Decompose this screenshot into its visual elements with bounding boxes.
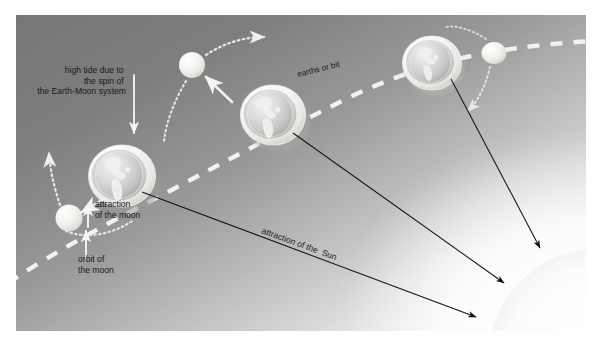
orbit-moon-line-1: orbit of xyxy=(78,254,105,264)
diagram-canvas: high tide due to the spin of the Earth-M… xyxy=(16,15,586,331)
attraction-moon-line-1: attraction xyxy=(95,199,131,209)
attraction-moon-line-2: of the moon xyxy=(95,210,141,220)
moon-middle xyxy=(179,52,205,78)
figure-root: high tide due to the spin of the Earth-M… xyxy=(0,0,601,348)
high-tide-line-3: the Earth-Moon system xyxy=(37,86,126,96)
tides-diagram: high tide due to the spin of the Earth-M… xyxy=(16,15,586,331)
orbit-moon-line-2: the moon xyxy=(78,265,114,275)
moon-right xyxy=(482,42,507,64)
high-tide-line-1: high tide due to xyxy=(65,65,124,75)
moon-left xyxy=(56,205,83,232)
high-tide-line-2: the spin of xyxy=(84,76,124,86)
